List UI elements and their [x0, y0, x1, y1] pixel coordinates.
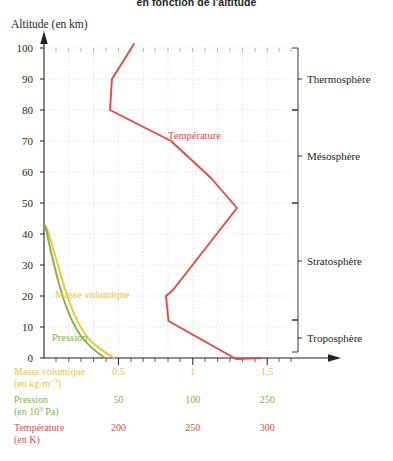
scale-tick-pressure-2: 100: [185, 394, 200, 406]
scale-unit-pressure-base: (en 10: [14, 406, 39, 417]
atmosphere-profile-chart: en fonction de l'altitude Altitude (en k…: [0, 0, 393, 461]
scale-unit-density: (en kg·m−3): [14, 378, 61, 390]
y-tick-label-70: 70: [3, 136, 33, 147]
bracket-thermosphere: [292, 48, 302, 110]
y-tick-label-20: 20: [3, 291, 33, 302]
y-tick-label-80: 80: [3, 105, 33, 116]
y-axis-arrow: [40, 31, 47, 44]
bracket-troposphere: [292, 320, 302, 352]
scale-tick-pressure-3: 250: [260, 394, 275, 406]
scale-tick-density-1: 0,5: [112, 366, 125, 378]
scale-unit-pressure: (en 103 Pa): [14, 406, 59, 418]
scale-unit-temperature: (en K): [14, 434, 40, 446]
scale-tick-density-2: 1: [190, 366, 195, 378]
y-tick-label-10: 10: [3, 322, 33, 333]
plot-area: [0, 0, 393, 461]
y-tick-label-60: 60: [3, 167, 33, 178]
bracket-stratosphere: [292, 203, 302, 320]
density-curve-label: Masse volumique: [55, 290, 129, 301]
top-tick-row: [56, 48, 291, 52]
scale-tick-temperature-1: 200: [111, 422, 126, 434]
y-axis: [40, 31, 47, 358]
scale-tick-pressure-1: 50: [113, 394, 123, 406]
scale-unit-density-tail: ): [58, 378, 61, 389]
scale-tick-temperature-2: 250: [185, 422, 200, 434]
scale-name-temperature: Température: [14, 422, 64, 434]
y-axis-ticks: [40, 48, 44, 358]
scale-tick-temperature-3: 300: [260, 422, 275, 434]
layer-label-thermosphere: Thermosphère: [307, 74, 371, 85]
layer-label-mesosphere: Mésosphère: [307, 151, 360, 162]
scale-tick-density-3: 1,5: [261, 366, 274, 378]
scale-unit-density-exp: −3: [50, 376, 57, 384]
layer-label-troposphere: Troposphère: [307, 333, 362, 344]
layer-brackets: [292, 48, 302, 352]
y-tick-label-0: 0: [3, 353, 33, 364]
pressure-curve-label: Pression: [52, 333, 88, 344]
x-axis-arrow: [328, 354, 341, 361]
bracket-mesosphere: [292, 110, 302, 203]
scale-unit-density-base: (en kg·m: [14, 378, 50, 389]
y-tick-label-90: 90: [3, 74, 33, 85]
y-tick-label-30: 30: [3, 260, 33, 271]
temperature-curve-label: Température: [168, 131, 221, 142]
scale-unit-temperature-base: (en K): [14, 434, 40, 445]
temperature-curve: [110, 44, 261, 359]
scale-unit-pressure-tail: Pa): [43, 406, 59, 417]
y-tick-label-100: 100: [3, 43, 33, 54]
layer-label-stratosphere: Stratosphère: [307, 256, 362, 267]
y-tick-label-40: 40: [3, 229, 33, 240]
y-tick-label-50: 50: [3, 198, 33, 209]
